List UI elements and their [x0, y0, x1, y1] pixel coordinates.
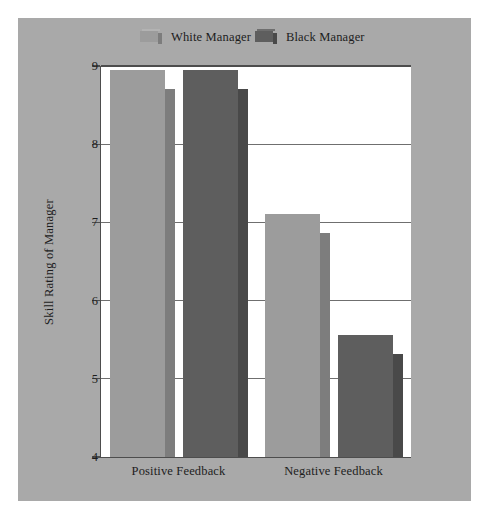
legend-swatch-icon-white-manager: [140, 31, 162, 44]
bar-face: [338, 335, 393, 457]
legend-label-white-manager: White Manager: [171, 30, 251, 45]
y-axis-tick-label-4: 4: [76, 450, 98, 465]
bar-white-manager-positive-feedback[interactable]: [110, 70, 165, 457]
y-axis-tick-label-6: 6: [76, 293, 98, 308]
bar-shadow-side: [165, 89, 175, 457]
bar-black-manager-negative-feedback[interactable]: [338, 335, 393, 457]
legend-swatch-icon-black-manager: [255, 31, 277, 44]
y-axis-tick-label-8: 8: [76, 137, 98, 152]
legend-entry-white-manager[interactable]: White Manager: [140, 27, 251, 47]
y-axis-tick-label-5: 5: [76, 371, 98, 386]
plot-area: Skill Rating of Manager 456789 Positive …: [100, 66, 411, 458]
bar-shadow-side: [238, 89, 248, 457]
bar-face: [265, 214, 320, 457]
legend-entry-black-manager[interactable]: Black Manager: [255, 27, 365, 47]
bar-black-manager-positive-feedback[interactable]: [183, 70, 238, 457]
y-axis-title: Skill Rating of Manager: [42, 199, 57, 325]
bar-face: [183, 70, 238, 457]
chart-figure: White Manager Black Manager Skill Rating…: [18, 18, 471, 501]
bar-face: [110, 70, 165, 457]
chart-legend: White Manager Black Manager: [18, 27, 471, 51]
gridline-9: [101, 65, 411, 66]
bar-white-manager-negative-feedback[interactable]: [265, 214, 320, 457]
bar-shadow-side: [393, 354, 403, 457]
legend-label-black-manager: Black Manager: [286, 30, 365, 45]
bar-shadow-side: [320, 233, 330, 457]
x-axis-group-label-1: Negative Feedback: [284, 464, 383, 479]
y-axis-tick-label-9: 9: [76, 59, 98, 74]
x-axis-group-label-0: Positive Feedback: [132, 464, 226, 479]
y-axis-tick-label-7: 7: [76, 215, 98, 230]
